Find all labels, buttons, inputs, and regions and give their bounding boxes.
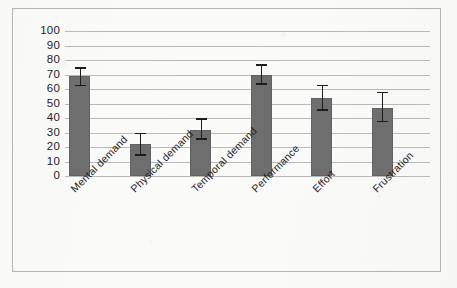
y-tick-label-90: 90 — [18, 40, 60, 52]
y-tick-label-10: 10 — [18, 156, 60, 168]
x-axis-label: Performance — [249, 142, 302, 195]
y-axis-ticks: 0102030405060708090100 — [18, 0, 60, 288]
y-tick-label-50: 50 — [18, 98, 60, 110]
x-axis-labels: Mental demandPhysical demandTemporal dem… — [65, 0, 457, 288]
x-axis-label: Effort — [310, 168, 337, 195]
x-axis-label: Mental demand — [68, 133, 130, 195]
x-axis-label: Frustration — [370, 149, 416, 195]
y-tick-label-60: 60 — [18, 83, 60, 95]
y-tick-label-30: 30 — [18, 127, 60, 139]
x-axis-label: Physical demand — [128, 127, 195, 194]
y-tick-label-0: 0 — [18, 170, 60, 182]
bar-chart: 0102030405060708090100 Mental demandPhys… — [0, 0, 457, 288]
y-tick-label-100: 100 — [18, 25, 60, 37]
y-tick-label-70: 70 — [18, 69, 60, 81]
y-tick-label-40: 40 — [18, 112, 60, 124]
y-tick-label-20: 20 — [18, 141, 60, 153]
x-axis-label: Temporal demand — [189, 124, 259, 194]
y-tick-label-80: 80 — [18, 54, 60, 66]
